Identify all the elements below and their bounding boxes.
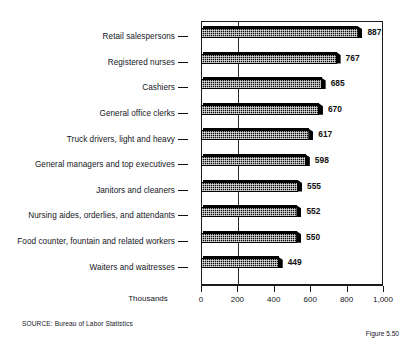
bar	[201, 154, 310, 166]
bar-value-label: 617	[318, 129, 332, 139]
bar	[201, 180, 302, 192]
bar-value-label: 670	[328, 104, 342, 114]
bar-end-cap	[296, 231, 301, 243]
bar-row: 887	[201, 21, 383, 47]
category-tick-dash	[178, 139, 188, 140]
category-label: Retail salespersons	[103, 32, 175, 41]
category-label-row: Waiters and waitresses	[0, 254, 190, 280]
x-axis-title: Thousands	[128, 294, 168, 303]
category-label: Nursing aides, orderlies, and attendants	[28, 211, 175, 220]
category-label-row: Janitors and cleaners	[0, 178, 190, 204]
x-axis-tick-label: 600	[304, 295, 317, 304]
bar	[201, 128, 313, 140]
category-tick-dash	[178, 164, 188, 165]
bar-value-label: 887	[367, 27, 381, 37]
bar-value-label: 685	[331, 78, 345, 88]
bars-layer: 887767685670617598555552550449	[201, 21, 383, 285]
category-label-row: Registered nurses	[0, 50, 190, 76]
x-axis-tick	[237, 286, 238, 292]
category-label-row: Food counter, fountain and related worke…	[0, 229, 190, 255]
bar-value-label: 449	[288, 257, 302, 267]
category-tick-dash	[178, 215, 188, 216]
category-label: Janitors and cleaners	[96, 186, 175, 195]
category-label: Waiters and waitresses	[90, 263, 175, 272]
bar-row: 552	[201, 200, 383, 226]
x-axis-tick	[274, 286, 275, 292]
bar-fill	[201, 28, 358, 38]
bar	[201, 231, 301, 243]
x-axis-tick	[383, 286, 384, 292]
bar-fill	[201, 258, 279, 268]
bar-end-cap	[308, 128, 313, 140]
bar-fill	[201, 233, 297, 243]
bar-row: 685	[201, 72, 383, 98]
category-tick-dash	[178, 267, 188, 268]
category-tick-dash	[178, 241, 188, 242]
x-axis-tick-label: 1,000	[373, 295, 393, 304]
category-axis-labels: Retail salespersonsRegistered nursesCash…	[0, 24, 190, 280]
bar-fill	[201, 105, 319, 115]
category-label: Truck drivers, light and heavy	[67, 135, 175, 144]
category-label-row: General office clerks	[0, 101, 190, 127]
category-label: Cashiers	[142, 83, 175, 92]
bar-fill	[201, 79, 322, 89]
bar-end-cap	[321, 77, 326, 89]
x-axis-tick	[201, 286, 202, 292]
bar-fill	[201, 182, 298, 192]
bar-row: 449	[201, 251, 383, 277]
category-tick-dash	[178, 190, 188, 191]
bar-chart: Retail salespersonsRegistered nursesCash…	[0, 0, 417, 349]
category-tick-dash	[178, 113, 188, 114]
bar-fill	[201, 207, 297, 217]
bar-value-label: 552	[306, 206, 320, 216]
bar-fill	[201, 130, 309, 140]
x-axis-tick	[310, 286, 311, 292]
category-tick-dash	[178, 62, 188, 63]
chart-title	[0, 0, 417, 1]
x-axis-tick-label: 0	[199, 295, 203, 304]
bar-row: 617	[201, 123, 383, 149]
category-label: General managers and top executives	[35, 160, 175, 169]
category-label: Food counter, fountain and related worke…	[17, 237, 175, 246]
bar-value-label: 555	[307, 181, 321, 191]
bar-fill	[201, 54, 337, 64]
category-label-row: Nursing aides, orderlies, and attendants	[0, 203, 190, 229]
x-axis-tick	[347, 286, 348, 292]
bar	[201, 77, 326, 89]
bar-row: 767	[201, 47, 383, 73]
category-tick-dash	[178, 36, 188, 37]
bar-end-cap	[318, 103, 323, 115]
bar-end-cap	[305, 154, 310, 166]
bar-value-label: 767	[346, 53, 360, 63]
x-axis-tick-label: 200	[231, 295, 244, 304]
bar-end-cap	[296, 205, 301, 217]
figure-label: Figure 5.50	[366, 330, 399, 337]
bar	[201, 205, 301, 217]
bar-row: 598	[201, 149, 383, 175]
category-label: General office clerks	[99, 109, 175, 118]
bar-row: 550	[201, 226, 383, 252]
category-label-row: General managers and top executives	[0, 152, 190, 178]
category-label-row: Truck drivers, light and heavy	[0, 126, 190, 152]
bar-value-label: 550	[306, 232, 320, 242]
x-axis: 02004006008001,000	[201, 285, 383, 287]
category-tick-dash	[178, 87, 188, 88]
bar	[201, 256, 283, 268]
bar	[201, 26, 362, 38]
category-label-row: Cashiers	[0, 75, 190, 101]
bar-end-cap	[278, 256, 283, 268]
bar	[201, 52, 341, 64]
x-axis-tick-label: 400	[267, 295, 280, 304]
bar-end-cap	[297, 180, 302, 192]
bar-row: 670	[201, 98, 383, 124]
bar-fill	[201, 156, 306, 166]
category-label-row: Retail salespersons	[0, 24, 190, 50]
source-note: SOURCE: Bureau of Labor Statistics	[22, 320, 133, 327]
bar-row: 555	[201, 175, 383, 201]
bar-end-cap	[357, 26, 362, 38]
category-label: Registered nurses	[108, 58, 175, 67]
bar	[201, 103, 323, 115]
x-axis-tick-label: 800	[340, 295, 353, 304]
bar-end-cap	[336, 52, 341, 64]
bar-value-label: 598	[315, 155, 329, 165]
